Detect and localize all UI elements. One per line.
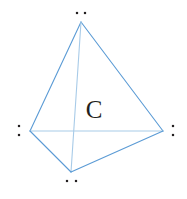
bond-edge-top-left [30,22,81,131]
electron-dot-top-1 [76,12,78,14]
bond-edge-left-bottom [30,131,71,172]
electron-dot-right-2 [172,134,174,136]
bond-edge-top-bottom [71,22,81,172]
electron-dot-bottom-2 [75,180,77,182]
electron-dot-right-1 [172,125,174,127]
lone-pair-bottom [66,180,77,182]
electron-dot-left-1 [18,125,20,127]
center-atom-label: C [86,96,103,123]
lone-pair-top [76,12,86,14]
lone-pair-left [18,125,20,136]
lewis-structure-diagram: C [0,0,187,199]
lone-pair-right [172,125,174,136]
bond-edge-right-bottom [71,131,163,172]
electron-dot-bottom-1 [66,180,68,182]
electron-dot-left-2 [18,134,20,136]
diagram-canvas: C [0,0,187,199]
electron-dot-top-2 [84,12,86,14]
